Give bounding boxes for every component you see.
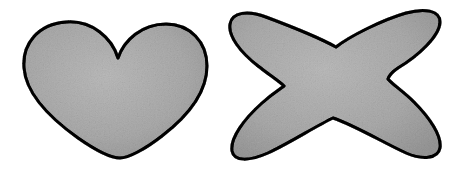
shapes-illustration [0, 0, 460, 170]
drawing-canvas [0, 0, 460, 170]
